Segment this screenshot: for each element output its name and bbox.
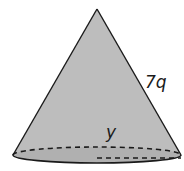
- radius-label: y: [105, 122, 117, 142]
- cone-diagram: 7q y: [0, 0, 184, 171]
- slant-height-label: 7q: [145, 72, 167, 92]
